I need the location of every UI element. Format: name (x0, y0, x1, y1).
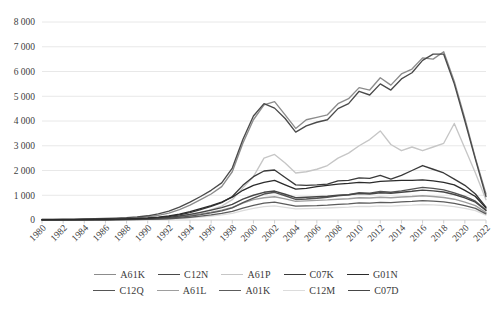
legend-item-a61l[interactable]: A61L (157, 285, 207, 296)
y-axis-tick-label: 6 000 (14, 67, 36, 77)
x-axis-tick-label: 2008 (323, 223, 344, 244)
x-axis-tick-label: 1982 (49, 223, 70, 244)
legend-item-c12m[interactable]: C12M (283, 285, 335, 296)
legend-swatch-icon (221, 274, 243, 275)
legend-swatch-icon (283, 290, 305, 291)
legend-swatch-icon (157, 290, 179, 291)
x-axis-tick-label: 2004 (281, 223, 302, 244)
legend-label: A01K (245, 285, 270, 296)
x-axis-tick-label: 1992 (154, 223, 175, 244)
legend-swatch-icon (93, 290, 115, 291)
legend-row: C12QA61LA01KC12MC07D (93, 285, 398, 296)
x-axis-tick-label: 2020 (450, 223, 471, 244)
line-chart: 01 0002 0003 0004 0005 0006 0007 0008 00… (0, 0, 492, 320)
legend-item-a01k[interactable]: A01K (219, 285, 270, 296)
legend-item-g01n[interactable]: G01N (347, 269, 398, 280)
legend-swatch-icon (94, 274, 116, 275)
x-axis-tick-label: 2016 (408, 223, 429, 244)
legend-item-c07k[interactable]: C07K (284, 269, 334, 280)
legend-row: A61KC12NA61PC07KG01N (94, 269, 397, 280)
x-axis-tick-label: 2002 (260, 223, 281, 244)
legend-label: C07D (374, 285, 398, 296)
x-axis-tick-label: 2000 (239, 223, 260, 244)
legend-label: C07K (310, 269, 334, 280)
x-axis-tick-label: 1984 (70, 223, 91, 244)
legend-item-c07d[interactable]: C07D (348, 285, 398, 296)
series-line-a01k (42, 201, 486, 220)
legend-item-a61p[interactable]: A61P (221, 269, 270, 280)
x-axis-tick-label: 1990 (133, 223, 154, 244)
legend-swatch-icon (348, 290, 370, 291)
legend-swatch-icon (219, 290, 241, 291)
legend-item-c12q[interactable]: C12Q (93, 285, 143, 296)
y-axis-tick-label: 8 000 (14, 17, 36, 27)
x-axis-tick-label: 2012 (366, 223, 387, 244)
x-axis-tick-label: 1998 (218, 223, 239, 244)
x-axis-tick-label: 1980 (27, 223, 48, 244)
x-axis-tick-label: 2006 (302, 223, 323, 244)
x-axis-tick-label: 2018 (429, 223, 450, 244)
legend-swatch-icon (284, 274, 306, 275)
y-axis-tick-label: 4 000 (14, 116, 36, 126)
legend-label: C12N (184, 269, 208, 280)
plot-area: 01 0002 0003 0004 0005 0006 0007 0008 00… (0, 0, 492, 268)
x-axis-tick-label: 1994 (175, 223, 196, 244)
series-line-a61l (42, 196, 486, 220)
x-axis-tick-label: 2022 (471, 223, 492, 244)
legend-label: C12M (309, 285, 335, 296)
series-line-g01n (42, 180, 486, 220)
legend-label: G01N (373, 269, 398, 280)
y-axis-tick-label: 3 000 (14, 141, 36, 151)
chart-legend: A61KC12NA61PC07KG01NC12QA61LA01KC12MC07D (0, 266, 492, 320)
y-axis-tick-label: 5 000 (14, 92, 36, 102)
y-axis-tick-label: 7 000 (14, 42, 36, 52)
legend-item-c12n[interactable]: C12N (158, 269, 208, 280)
legend-swatch-icon (347, 274, 369, 275)
x-axis-tick-label: 1988 (112, 223, 133, 244)
legend-label: A61L (183, 285, 207, 296)
x-axis-tick-label: 1996 (197, 223, 218, 244)
legend-swatch-icon (158, 274, 180, 275)
x-axis-tick-label: 2010 (345, 223, 366, 244)
chart-canvas: 01 0002 0003 0004 0005 0006 0007 0008 00… (0, 0, 492, 268)
legend-label: A61K (120, 269, 145, 280)
y-axis-tick-label: 0 (30, 215, 35, 225)
x-axis-tick-label: 2014 (387, 223, 408, 244)
y-axis-tick-label: 1 000 (14, 191, 36, 201)
legend-label: A61P (247, 269, 270, 280)
legend-item-a61k[interactable]: A61K (94, 269, 145, 280)
y-axis-tick-label: 2 000 (14, 166, 36, 176)
series-line-c12m (42, 205, 486, 220)
legend-label: C12Q (119, 285, 143, 296)
x-axis-tick-label: 1986 (91, 223, 112, 244)
